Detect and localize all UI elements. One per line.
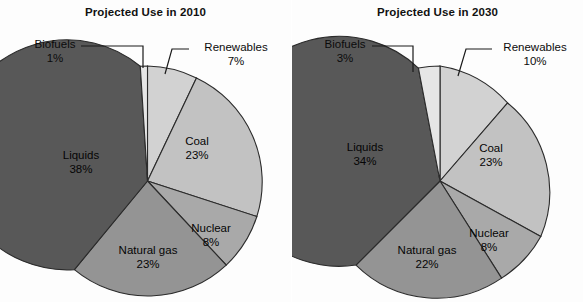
callout-biofuels-value-2010: 1%	[22, 52, 88, 66]
slice-label-nuclear-2010: Nuclear 8%	[191, 222, 231, 249]
callout-renewables-value-2030: 10%	[495, 55, 575, 69]
callout-biofuels-2030: Biofuels 3%	[312, 38, 378, 65]
callout-renewables-label-2030: Renewables	[503, 41, 566, 53]
slice-label-liquids-value-2030: 34%	[347, 154, 383, 168]
slice-label-nuclear-value-2010: 8%	[191, 235, 231, 249]
slice-label-liquids-value-2010: 38%	[63, 162, 99, 176]
slice-label-nuclear-name-2030: Nuclear	[469, 227, 509, 239]
slice-label-coal-value-2030: 23%	[479, 155, 503, 169]
slice-label-coal-name-2010: Coal	[185, 135, 209, 147]
slice-label-nuclear-value-2030: 8%	[469, 240, 509, 254]
slice-label-coal-value-2010: 23%	[185, 148, 209, 162]
slice-label-liquids-name-2030: Liquids	[347, 141, 383, 153]
slice-label-nuclear-2030: Nuclear 8%	[469, 227, 509, 254]
callout-renewables-value-2010: 7%	[196, 55, 276, 69]
slice-label-liquids-2010: Liquids 38%	[63, 149, 99, 176]
slice-label-natural-gas-name-2010: Natural gas	[119, 244, 178, 256]
callout-renewables-2010: Renewables 7%	[196, 41, 276, 68]
slice-label-coal-2010: Coal 23%	[185, 135, 209, 162]
slice-label-natural-gas-2010: Natural gas 23%	[119, 244, 178, 271]
slice-label-liquids-2030: Liquids 34%	[347, 141, 383, 168]
slice-label-coal-name-2030: Coal	[479, 142, 503, 154]
pie-chart-panel-2030: Projected Use in 2030 Biofuels 3%	[292, 0, 583, 302]
slice-label-nuclear-name-2010: Nuclear	[191, 222, 231, 234]
callout-biofuels-label-2030: Biofuels	[325, 38, 366, 50]
callout-renewables-2030: Renewables 10%	[495, 41, 575, 68]
callout-biofuels-value-2030: 3%	[312, 52, 378, 66]
slice-label-coal-2030: Coal 23%	[479, 142, 503, 169]
callout-renewables-label-2010: Renewables	[204, 41, 267, 53]
slice-label-natural-gas-value-2010: 23%	[119, 257, 178, 271]
slice-label-natural-gas-2030: Natural gas 22%	[398, 244, 457, 271]
slice-label-liquids-name-2010: Liquids	[63, 149, 99, 161]
pie-chart-panel-2010: Projected Use in 2010 Biofuels 1%	[0, 0, 291, 302]
callout-biofuels-label-2010: Biofuels	[35, 38, 76, 50]
callout-biofuels-2010: Biofuels 1%	[22, 38, 88, 65]
slice-label-natural-gas-value-2030: 22%	[398, 257, 457, 271]
slice-label-natural-gas-name-2030: Natural gas	[398, 244, 457, 256]
figure-canvas: Projected Use in 2010 Biofuels 1%	[0, 0, 583, 302]
